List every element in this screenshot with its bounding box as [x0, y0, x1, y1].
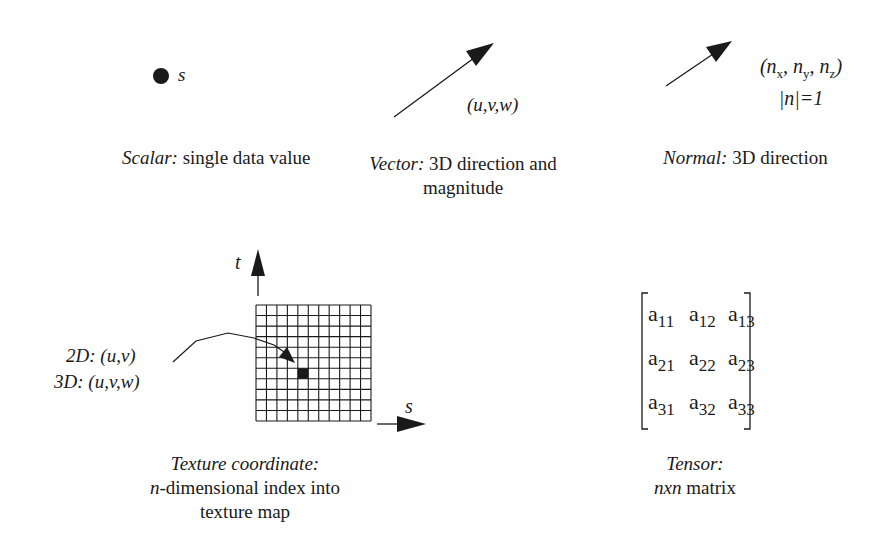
vector-symbol: (u,v,w): [467, 94, 518, 116]
texture-caption: Texture coordinate: n-dimensional index …: [110, 452, 380, 524]
texture-caption-line1: n-dimensional index into: [110, 476, 380, 500]
matrix-cell: a31: [648, 389, 675, 415]
highlighted-texel: [298, 368, 308, 379]
s-axis-arrow-icon: [377, 416, 426, 432]
matrix-cell: a23: [728, 345, 755, 371]
s-axis-label: s: [405, 395, 413, 417]
matrix-cell: a13: [728, 301, 755, 327]
vector-caption-line1: Vector: 3D direction and: [343, 152, 583, 176]
normal-arrow-icon: [666, 41, 732, 86]
tensor-caption: Tensor: nxn matrix: [620, 452, 770, 500]
scalar-caption-desc: single data value: [183, 147, 311, 168]
matrix-cell: a22: [689, 345, 716, 371]
scalar-symbol: s: [178, 64, 185, 86]
texture-map-grid: [256, 305, 371, 421]
normal-caption-desc: 3D direction: [732, 147, 828, 168]
normal-caption-term: Normal:: [663, 147, 727, 168]
matrix-cell: a33: [728, 389, 755, 415]
scalar-caption-term: Scalar:: [122, 147, 178, 168]
tensor-caption-term: Tensor:: [620, 452, 770, 476]
texture-caption-line2: texture map: [110, 500, 380, 524]
texture-3d-label: 3D: (u,v,w): [54, 371, 140, 393]
normal-components: (nx, ny, nz): [746, 55, 856, 85]
normal-caption: Normal: 3D direction: [663, 146, 828, 170]
t-axis-arrow-icon: [251, 249, 265, 296]
vector-caption-term: Vector:: [369, 153, 424, 174]
vector-caption-line2: magnitude: [343, 176, 583, 200]
tensor-caption-desc: nxn matrix: [620, 476, 770, 500]
matrix-cell: a12: [689, 301, 716, 327]
matrix-cell: a11: [648, 301, 674, 327]
vector-caption: Vector: 3D direction and magnitude: [343, 152, 583, 200]
tensor-matrix: a11 a12 a13 a21 a22 a23 a31 a32 a33: [626, 293, 754, 429]
scalar-caption: Scalar: single data value: [122, 146, 310, 170]
normal-symbol: (nx, ny, nz) |n|=1: [746, 55, 856, 109]
normal-unit-length: |n|=1: [746, 87, 856, 109]
texture-2d-label: 2D: (u,v): [66, 345, 136, 367]
matrix-cell: a32: [689, 389, 716, 415]
scalar-point-icon: [153, 68, 169, 84]
vector-caption-desc1: 3D direction and: [429, 153, 557, 174]
texture-caption-term: Texture coordinate:: [110, 452, 380, 476]
t-axis-label: t: [235, 251, 241, 273]
matrix-cell: a21: [648, 345, 675, 371]
